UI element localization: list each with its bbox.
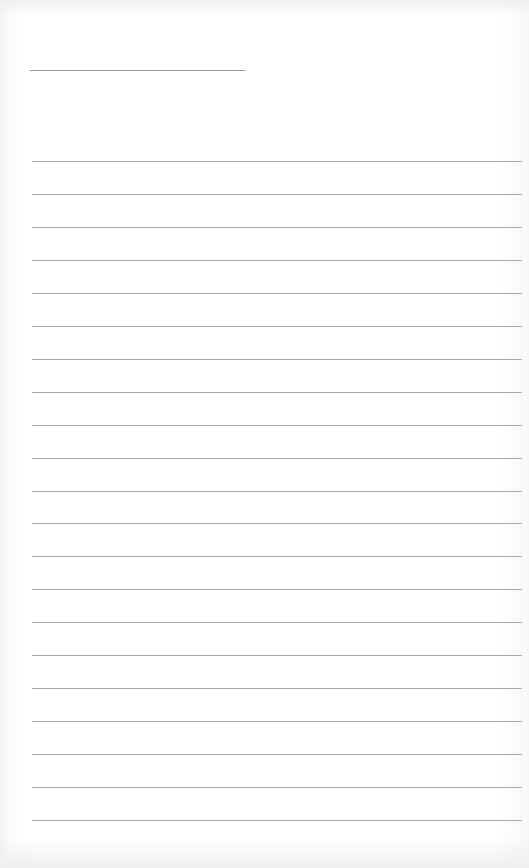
ruled-line	[32, 491, 522, 492]
ruled-line	[32, 622, 522, 623]
ruled-line	[32, 787, 522, 788]
ruled-line	[32, 293, 522, 294]
header-name-line	[30, 70, 245, 71]
ruled-line	[32, 721, 522, 722]
ruled-line	[32, 359, 522, 360]
ruled-line	[32, 820, 522, 821]
ruled-line	[32, 589, 522, 590]
ruled-line	[32, 556, 522, 557]
ruled-line	[32, 425, 522, 426]
ruled-line	[32, 161, 522, 162]
ruled-line	[32, 326, 522, 327]
ruled-line	[32, 458, 522, 459]
ruled-line	[32, 754, 522, 755]
lined-paper-page	[0, 0, 529, 868]
ruled-line	[32, 227, 522, 228]
ruled-line	[32, 688, 522, 689]
ruled-line	[32, 392, 522, 393]
ruled-line	[32, 655, 522, 656]
ruled-line	[32, 260, 522, 261]
ruled-line	[32, 194, 522, 195]
ruled-line	[32, 523, 522, 524]
